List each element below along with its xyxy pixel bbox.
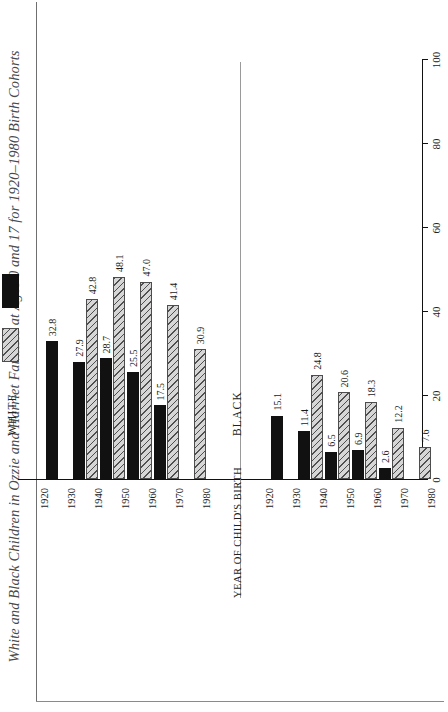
legend-swatch-age17 <box>2 274 19 308</box>
bar-value-label: 24.8 <box>312 352 323 370</box>
year-label-white-1920: 1920 <box>39 488 50 526</box>
bar-white-1950-age0 <box>113 277 125 479</box>
figure-page: White and Black Children in Ozzie and Ha… <box>0 0 448 712</box>
bar-white-1940-age17 <box>100 358 112 479</box>
year-label-black-1960: 1960 <box>372 488 383 526</box>
year-label-black-1950: 1950 <box>345 488 356 526</box>
bar-white-1950-age17 <box>127 372 139 479</box>
year-label-white-1950: 1950 <box>120 488 131 526</box>
percent-tick <box>422 143 428 144</box>
bar-value-label: 18.3 <box>366 380 377 398</box>
bar-value-label: 47.0 <box>141 259 152 277</box>
percent-tick <box>422 311 428 312</box>
group-name-black: BLACK <box>231 391 243 436</box>
bar-value-label: 28.7 <box>101 336 112 354</box>
bar-value-label: 11.4 <box>299 409 310 426</box>
bar-white-1960-age17 <box>154 406 166 480</box>
year-label-black-1980: 1980 <box>426 488 437 526</box>
percent-axis-line <box>422 60 423 480</box>
bar-black-1940-age0 <box>311 375 323 479</box>
group-name-white: WHITE <box>6 393 18 436</box>
percent-tick-label: 60 <box>430 223 442 234</box>
year-label-white-1980: 1980 <box>201 488 212 526</box>
percent-tick <box>422 395 428 396</box>
bar-value-label: 25.5 <box>128 349 139 367</box>
page-rule-bottom <box>36 701 444 702</box>
bar-value-label: 12.2 <box>393 405 404 423</box>
bar-value-label: 6.5 <box>326 434 337 447</box>
bar-black-1960-age0 <box>365 402 377 479</box>
year-label-black-1920: 1920 <box>264 488 275 526</box>
bar-black-1930-age17 <box>298 431 310 479</box>
bar-white-1980-age0 <box>194 349 206 479</box>
bar-value-label: 30.9 <box>195 327 206 345</box>
bar-black-1980-age0 <box>419 447 431 479</box>
percent-tick <box>422 227 428 228</box>
year-label-white-1970: 1970 <box>174 488 185 526</box>
chart-rotation-wrapper: 020406080100 PERCENT 32.827.942.828.748.… <box>0 0 448 600</box>
bar-black-1950-age0 <box>338 392 350 479</box>
percent-tick-label: 0 <box>430 477 442 483</box>
bar-black-1940-age17 <box>325 452 337 479</box>
legend-swatch-age0 <box>2 328 19 362</box>
bar-value-label: 42.8 <box>87 277 98 295</box>
plot-area: 32.827.942.828.748.125.547.017.541.430.9… <box>18 60 422 480</box>
year-axis-title: YEAR OF CHILD'S BIRTH <box>232 467 243 598</box>
percent-tick-label: 40 <box>430 307 442 318</box>
bar-value-label: 7.6 <box>420 430 431 443</box>
bar-white-1920-age17 <box>46 341 58 479</box>
bar-black-1950-age17 <box>352 450 364 479</box>
bar-white-1940-age0 <box>86 299 98 479</box>
bar-value-label: 17.5 <box>155 383 166 401</box>
percent-tick-label: 80 <box>430 139 442 150</box>
bar-white-1960-age0 <box>140 282 152 479</box>
year-label-black-1940: 1940 <box>318 488 329 526</box>
bar-value-label: 27.9 <box>74 339 85 357</box>
percent-tick-label: 100 <box>430 52 442 69</box>
year-label-black-1970: 1970 <box>399 488 410 526</box>
bar-value-label: 2.6 <box>380 451 391 464</box>
percent-tick-label: 20 <box>430 391 442 402</box>
bar-black-1970-age0 <box>392 428 404 479</box>
year-label-white-1930: 1930 <box>66 488 77 526</box>
bar-value-label: 32.8 <box>47 319 58 337</box>
bar-white-1930-age17 <box>73 362 85 479</box>
bar-black-1920-age17 <box>271 416 283 479</box>
bar-value-label: 48.1 <box>114 254 125 272</box>
bar-value-label: 15.1 <box>272 393 283 411</box>
year-label-black-1930: 1930 <box>291 488 302 526</box>
bar-chart: 020406080100 PERCENT 32.827.942.828.748.… <box>0 0 448 600</box>
bar-value-label: 6.9 <box>353 433 364 446</box>
year-label-white-1960: 1960 <box>147 488 158 526</box>
bar-black-1960-age17 <box>379 468 391 479</box>
year-label-white-1940: 1940 <box>93 488 104 526</box>
bar-white-1970-age0 <box>167 305 179 479</box>
percent-tick <box>422 59 428 60</box>
bar-value-label: 20.6 <box>339 370 350 388</box>
bar-value-label: 41.4 <box>168 283 179 301</box>
